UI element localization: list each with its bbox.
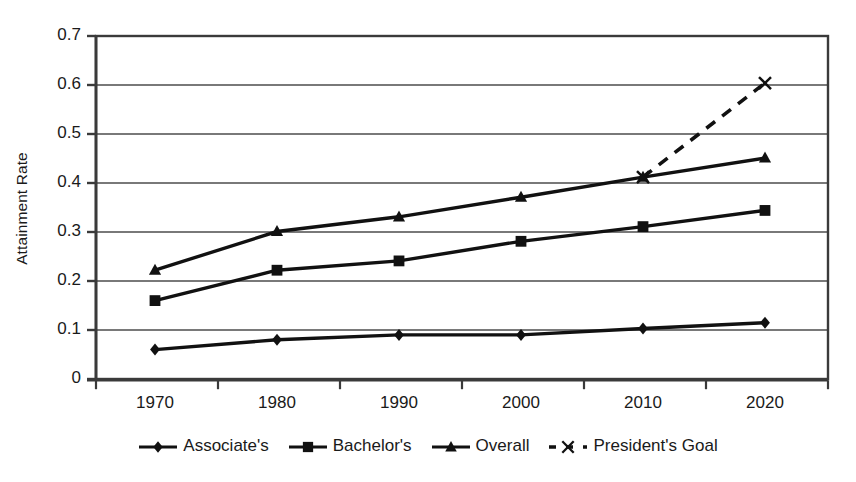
y-axis-tick-label: 0 (72, 368, 81, 388)
series-line (155, 323, 765, 350)
legend-item[interactable]: President's Goal (548, 437, 717, 456)
x-axis-tick-label: 1990 (354, 393, 444, 413)
legend-item[interactable]: Associate's (138, 437, 268, 456)
legend-swatch-diamond (138, 439, 178, 455)
data-point-marker-diamond (150, 344, 160, 356)
x-axis-tick-label: 2000 (476, 393, 566, 413)
data-point-marker-diamond (638, 323, 648, 335)
data-point-marker-square (516, 236, 527, 247)
y-axis-tick-label: 0.7 (57, 25, 81, 45)
y-axis-tick-label: 0.5 (57, 123, 81, 143)
x-axis-tick-label: 1970 (110, 393, 200, 413)
legend-label: Associate's (183, 437, 268, 456)
data-point-marker-square (760, 205, 771, 216)
y-axis-tick-label: 0.2 (57, 270, 81, 290)
legend-swatch-square (288, 439, 328, 455)
data-point-marker-diamond (272, 334, 282, 346)
data-point-marker-square (638, 221, 649, 232)
data-point-marker-square (303, 441, 313, 451)
legend-label: Bachelor's (333, 437, 412, 456)
series-line (643, 83, 765, 177)
data-point-marker-diamond (760, 317, 770, 329)
y-axis-tick-label: 0.3 (57, 221, 81, 241)
y-axis-tick-label: 0.6 (57, 74, 81, 94)
y-axis-tick-label: 0.1 (57, 319, 81, 339)
data-point-marker-square (272, 265, 283, 276)
x-axis-tick-label: 2020 (720, 393, 810, 413)
series-line (155, 158, 765, 270)
y-axis-tick-label: 0.4 (57, 172, 81, 192)
data-point-marker-diamond (154, 441, 163, 452)
data-point-marker-square (394, 256, 405, 267)
legend-item[interactable]: Bachelor's (288, 437, 412, 456)
chart-legend: Associate'sBachelor'sOverallPresident's … (0, 437, 856, 456)
x-axis-tick-label: 1980 (232, 393, 322, 413)
attainment-rate-line-chart: Attainment Rate 00.10.20.30.40.50.60.7 1… (0, 0, 856, 482)
data-point-marker-x (759, 77, 771, 89)
legend-label: President's Goal (593, 437, 717, 456)
data-point-marker-square (150, 295, 161, 306)
legend-swatch-x (548, 439, 588, 455)
legend-label: Overall (476, 437, 530, 456)
series-line (155, 210, 765, 300)
legend-item[interactable]: Overall (431, 437, 530, 456)
legend-swatch-triangle (431, 439, 471, 455)
x-axis-tick-label: 2010 (598, 393, 688, 413)
